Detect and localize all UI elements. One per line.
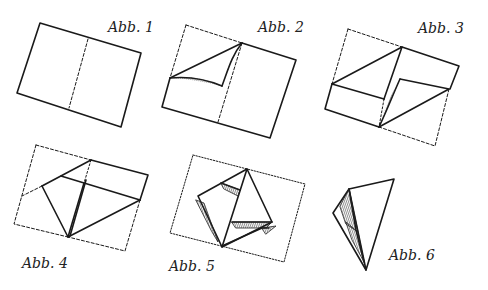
figure-4-label: Abb. 4	[22, 255, 68, 271]
figure-2-sheet	[162, 25, 296, 138]
figure-5-sheet	[170, 155, 305, 262]
figure-1-label: Abb. 1	[108, 19, 154, 35]
figure-2-label: Abb. 2	[258, 19, 304, 35]
figure-4-sheet	[14, 145, 148, 251]
figure-1-sheet	[17, 23, 141, 127]
figure-5-label: Abb. 5	[169, 258, 215, 274]
figure-3-label: Abb. 3	[418, 20, 464, 36]
figure-3-sheet	[325, 29, 459, 146]
figure-6-label: Abb. 6	[389, 247, 435, 263]
figure-6-sheet	[333, 179, 394, 270]
